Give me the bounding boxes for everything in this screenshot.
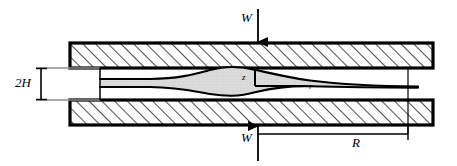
squeeze-film-diagram: W W 2H R z r xyxy=(0,0,457,166)
top-plate-body xyxy=(70,43,433,68)
radius-label: R xyxy=(352,136,360,149)
diagram-canvas xyxy=(0,0,457,166)
load-label-top: W xyxy=(241,11,252,24)
bottom-plate xyxy=(70,100,433,125)
axis-z-label: z xyxy=(242,73,246,82)
load-label-bottom: W xyxy=(241,131,252,144)
gap-dimension-2h xyxy=(36,68,100,100)
bottom-plate-body xyxy=(70,100,433,125)
top-plate xyxy=(70,43,433,68)
axis-r-label: r xyxy=(309,82,313,91)
gap-height-label: 2H xyxy=(15,76,31,89)
fluid-region xyxy=(100,67,418,96)
